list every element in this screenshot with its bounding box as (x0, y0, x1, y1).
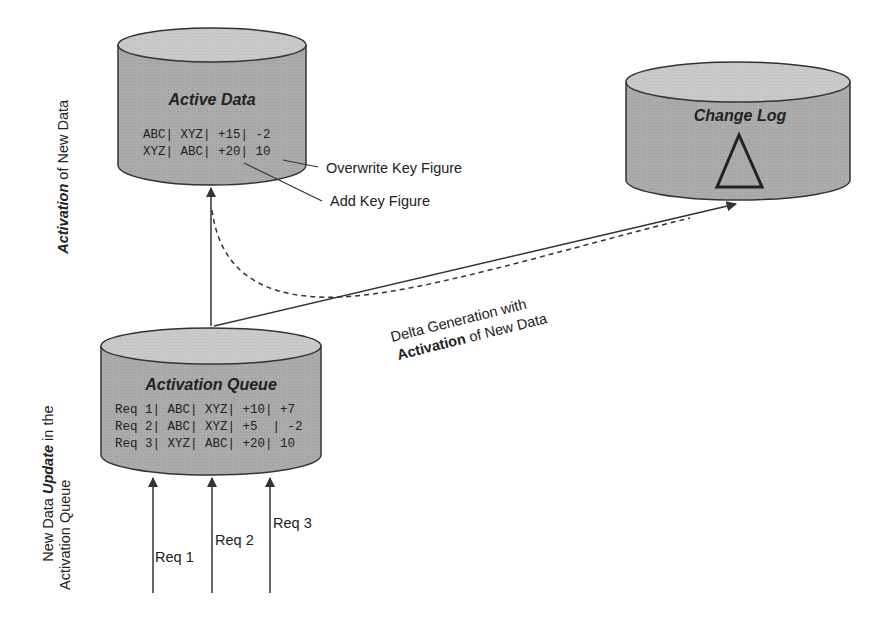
diagram-canvas: Active Data ABC| XYZ| +15| -2 XYZ| ABC| … (0, 0, 881, 631)
delta-dashed-path (212, 210, 690, 297)
side-label-activation-rest: of New Data (55, 99, 71, 184)
side-label-activation-bold: Activation (55, 184, 71, 255)
svg-text:New Data Update in the: New Data Update in the (40, 385, 56, 590)
side-label-update-prefix: New Data (40, 494, 56, 562)
request-label-3: Req 3 (273, 515, 312, 531)
request-label-2: Req 2 (215, 532, 254, 548)
svg-text:Activation of New Data: Activation of New Data (55, 80, 71, 282)
side-label-update-line2: Activation Queue (57, 480, 73, 590)
add-key-figure-label: Add Key Figure (330, 193, 430, 209)
active-data-cylinder: Active Data ABC| XYZ| +15| -2 XYZ| ABC| … (118, 28, 306, 185)
side-label-activation: Activation of New Data (55, 80, 71, 282)
active-data-row: ABC| XYZ| +15| -2 (143, 128, 271, 142)
side-label-update-suffix: in the (40, 405, 56, 445)
activation-queue-cylinder: Activation Queue Req 1| ABC| XYZ| +10| +… (101, 328, 321, 475)
side-label-update: New Data Update in the Activation Queue (40, 385, 73, 590)
side-label-update-bold: Update (40, 445, 56, 494)
delta-generation-label: Delta Generation with Activation of New … (389, 291, 550, 363)
queue-row: Req 2| ABC| XYZ| +5 | -2 (115, 420, 303, 434)
activation-queue-title: Activation Queue (144, 376, 277, 393)
queue-row: Req 1| ABC| XYZ| +10| +7 (115, 403, 295, 417)
active-data-row: XYZ| ABC| +20| 10 (143, 145, 271, 159)
active-data-title: Active Data (167, 91, 255, 108)
change-log-cylinder: Change Log (626, 62, 850, 200)
overwrite-key-figure-label: Overwrite Key Figure (326, 160, 462, 176)
queue-row: Req 3| XYZ| ABC| +20| 10 (115, 437, 295, 451)
change-log-title: Change Log (694, 107, 787, 124)
request-label-1: Req 1 (155, 549, 194, 565)
